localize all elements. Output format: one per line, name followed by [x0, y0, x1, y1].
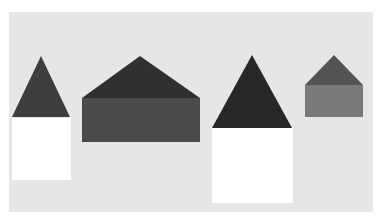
house-3-body: [212, 128, 293, 203]
house-2-roof-triangle: [82, 56, 200, 98]
shapes-layer: [0, 0, 380, 220]
house-1: [12, 56, 71, 180]
figure-canvas: [0, 0, 380, 220]
house-1-roof-triangle: [12, 56, 70, 117]
house-3: [212, 55, 293, 203]
house-4-roof-triangle: [305, 55, 363, 85]
house-1-body: [12, 118, 71, 180]
house-3-roof-triangle: [212, 55, 292, 128]
house-2: [82, 56, 200, 142]
house-4: [305, 55, 363, 117]
house-2-body: [82, 98, 200, 142]
house-4-body: [305, 85, 363, 117]
